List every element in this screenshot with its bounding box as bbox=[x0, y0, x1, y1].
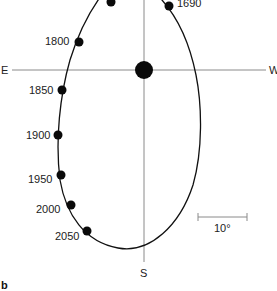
point-2050 bbox=[83, 227, 92, 236]
point-unlabeled bbox=[107, 0, 116, 7]
label-1900: 1900 bbox=[26, 129, 50, 141]
pole-marker bbox=[135, 61, 153, 79]
panel-label: b bbox=[1, 279, 8, 291]
point-1850 bbox=[58, 86, 67, 95]
label-1950: 1950 bbox=[28, 173, 52, 185]
point-1900 bbox=[54, 131, 63, 140]
point-2000 bbox=[67, 201, 76, 210]
point-1690 bbox=[165, 2, 174, 11]
south-label: S bbox=[140, 267, 147, 279]
point-1800 bbox=[75, 38, 84, 47]
label-2000: 2000 bbox=[36, 203, 60, 215]
scale-bar-label: 10° bbox=[214, 222, 231, 234]
west-label: W bbox=[269, 64, 277, 76]
label-1850: 1850 bbox=[29, 84, 53, 96]
point-1950 bbox=[57, 171, 66, 180]
east-label: E bbox=[1, 64, 8, 76]
wander-path bbox=[58, 0, 200, 249]
label-1800: 1800 bbox=[45, 35, 69, 47]
label-2050: 2050 bbox=[55, 230, 79, 242]
scale-bar: 10° bbox=[198, 213, 247, 234]
label-1690: 1690 bbox=[177, 0, 201, 9]
polar-wander-diagram: E W S 1690 1800 1850 1900 1950 2000 2050… bbox=[0, 0, 277, 291]
